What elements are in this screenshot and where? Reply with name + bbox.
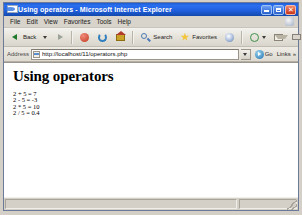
star-icon [179, 32, 190, 43]
page-favicon-icon [33, 51, 40, 58]
menu-item-favorites[interactable]: Favorites [61, 16, 94, 27]
back-dropdown-button[interactable] [40, 29, 50, 46]
back-button-label: Back [23, 30, 36, 45]
window-title: Using operators - Microsoft Internet Exp… [18, 3, 261, 16]
media-button[interactable] [221, 29, 238, 46]
address-bar: Address http://localhost/11/operators.ph… [4, 47, 298, 62]
media-icon [224, 32, 235, 43]
print-icon [291, 32, 302, 43]
menu-item-file[interactable]: File [7, 16, 23, 27]
menu-bar: File Edit View Favorites Tools Help [4, 16, 298, 28]
go-button-label: Go [265, 51, 273, 57]
chevron-down-icon [43, 36, 47, 39]
title-bar[interactable]: Using operators - Microsoft Internet Exp… [4, 3, 298, 16]
home-button[interactable] [112, 29, 129, 46]
toolbar-separator [241, 31, 243, 44]
chevron-down-icon [262, 36, 266, 39]
chevron-right-icon[interactable]: » [293, 50, 296, 58]
stop-button[interactable] [76, 29, 93, 46]
toolbar-separator [132, 31, 134, 44]
menu-item-help[interactable]: Help [115, 16, 134, 27]
favorites-button[interactable]: Favorites [176, 29, 220, 46]
go-icon [255, 50, 264, 59]
minimize-button[interactable] [261, 5, 272, 15]
ie-page-icon [6, 5, 15, 14]
status-text [5, 199, 237, 209]
favorites-button-label: Favorites [192, 30, 217, 45]
home-icon [115, 32, 126, 43]
menu-item-view[interactable]: View [41, 16, 61, 27]
menu-item-tools[interactable]: Tools [93, 16, 114, 27]
close-button[interactable]: ✕ [285, 5, 296, 15]
document-body: Using operators 2 + 5 = 7 2 - 5 = -3 2 *… [4, 63, 298, 197]
stop-icon [79, 32, 90, 43]
toolbar: Back Search [4, 28, 298, 47]
links-label[interactable]: Links [277, 51, 291, 57]
resize-grip[interactable] [287, 200, 297, 210]
address-input[interactable]: http://localhost/11/operators.php [31, 49, 239, 60]
search-button-label: Search [153, 30, 172, 45]
print-button[interactable] [288, 29, 302, 46]
go-button[interactable]: Go [253, 48, 275, 60]
browser-window: Using operators - Microsoft Internet Exp… [0, 0, 302, 215]
chevron-down-icon [243, 53, 247, 56]
address-label: Address [7, 51, 29, 57]
maximize-button[interactable] [273, 5, 284, 15]
search-button[interactable]: Search [137, 29, 175, 46]
refresh-icon [97, 32, 108, 43]
address-dropdown-button[interactable] [241, 49, 251, 60]
arrow-left-icon [10, 32, 21, 43]
ie-frame: Using operators - Microsoft Internet Exp… [3, 2, 299, 211]
arrow-right-icon [54, 32, 65, 43]
back-button[interactable]: Back [7, 29, 39, 46]
search-icon [140, 32, 151, 43]
page-viewport: Using operators 2 + 5 = 7 2 - 5 = -3 2 *… [4, 62, 298, 197]
menu-item-edit[interactable]: Edit [23, 16, 40, 27]
toolbar-separator [71, 31, 73, 44]
history-button[interactable] [246, 29, 269, 46]
mail-button[interactable] [270, 29, 287, 46]
list-item: 2 / 5 = 0.4 [13, 110, 298, 116]
forward-button[interactable] [51, 29, 68, 46]
close-icon: ✕ [286, 6, 295, 14]
page-title: Using operators [13, 68, 298, 84]
history-icon [249, 32, 260, 43]
status-bar [4, 197, 298, 210]
refresh-button[interactable] [94, 29, 111, 46]
operator-results-list: 2 + 5 = 7 2 - 5 = -3 2 * 5 = 10 2 / 5 = … [13, 91, 298, 117]
address-url-text: http://localhost/11/operators.php [42, 50, 237, 59]
window-controls: ✕ [261, 5, 297, 15]
windows-flag-icon [285, 17, 294, 26]
mail-icon [273, 32, 284, 43]
